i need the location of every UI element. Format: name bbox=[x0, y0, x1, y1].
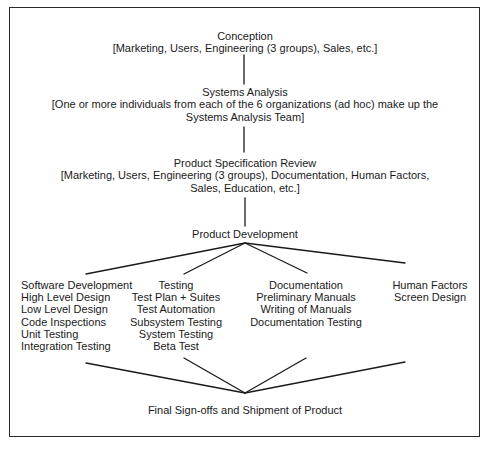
branch-item: Subsystem Testing bbox=[126, 316, 226, 328]
fan-in-software bbox=[86, 363, 245, 393]
stage-product-development: Product Development bbox=[0, 228, 490, 240]
branch-item: Screen Design bbox=[380, 291, 480, 303]
stage-title: Product Development bbox=[0, 228, 490, 240]
stage-detail: Sales, Education, etc.] bbox=[0, 182, 490, 194]
connector-lines bbox=[0, 0, 493, 453]
stage-detail: Systems Analysis Team] bbox=[0, 111, 490, 123]
branch-item: Documentation Testing bbox=[246, 316, 366, 328]
branch-item: System Testing bbox=[126, 328, 226, 340]
stage-conception: Conception [Marketing, Users, Engineerin… bbox=[0, 30, 490, 55]
stage-final-signoff: Final Sign-offs and Shipment of Product bbox=[0, 404, 490, 416]
branch-item: High Level Design bbox=[21, 291, 132, 303]
stage-detail: [Marketing, Users, Engineering (3 groups… bbox=[0, 169, 490, 181]
branch-item: Beta Test bbox=[126, 340, 226, 352]
branch-item: Code Inspections bbox=[21, 316, 132, 328]
branch-item: Low Level Design bbox=[21, 303, 132, 315]
stage-detail: [One or more individuals from each of th… bbox=[0, 98, 490, 110]
stage-title: Product Specification Review bbox=[0, 157, 490, 169]
fan-in-human-factors bbox=[245, 362, 405, 393]
fan-out-software bbox=[86, 243, 245, 274]
branch-item: Preliminary Manuals bbox=[246, 291, 366, 303]
branch-testing: Testing Test Plan + Suites Test Automati… bbox=[126, 279, 226, 352]
branch-item: Test Automation bbox=[126, 303, 226, 315]
fan-out-testing bbox=[184, 243, 245, 274]
branch-item: Writing of Manuals bbox=[246, 303, 366, 315]
branch-human-factors: Human Factors Screen Design bbox=[380, 279, 480, 303]
stage-systems-analysis: Systems Analysis [One or more individual… bbox=[0, 86, 490, 123]
branch-title: Testing bbox=[126, 279, 226, 291]
branch-title: Software Development bbox=[21, 279, 132, 291]
stage-title: Final Sign-offs and Shipment of Product bbox=[0, 404, 490, 416]
branch-title: Human Factors bbox=[380, 279, 480, 291]
branch-documentation: Documentation Preliminary Manuals Writin… bbox=[246, 279, 366, 328]
branch-item: Integration Testing bbox=[21, 340, 132, 352]
stage-title: Conception bbox=[0, 30, 490, 42]
branch-software-development: Software Development High Level Design L… bbox=[21, 279, 132, 352]
branch-item: Test Plan + Suites bbox=[126, 291, 226, 303]
branch-item: Unit Testing bbox=[21, 328, 132, 340]
stage-title: Systems Analysis bbox=[0, 86, 490, 98]
branch-title: Documentation bbox=[246, 279, 366, 291]
fan-out-human-factors bbox=[245, 243, 405, 263]
stage-spec-review: Product Specification Review [Marketing,… bbox=[0, 157, 490, 194]
stage-detail: [Marketing, Users, Engineering (3 groups… bbox=[0, 42, 490, 54]
